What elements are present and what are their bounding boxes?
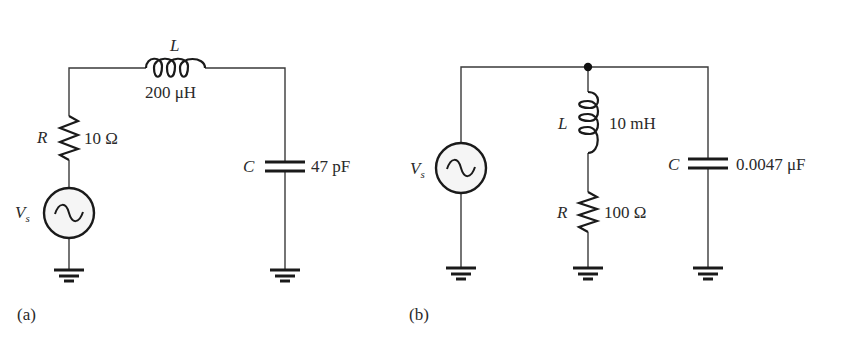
source-a-label: Vs xyxy=(15,204,30,224)
capacitor-a-value: 47 pF xyxy=(311,158,350,175)
source-a-subscript: s xyxy=(25,212,29,224)
wire-b-top xyxy=(461,67,708,159)
wire-a-right xyxy=(205,68,285,162)
caption-b: (b) xyxy=(409,306,429,323)
inductor-a-symbol: L xyxy=(170,37,179,54)
ground-a-source-icon xyxy=(54,270,84,281)
inductor-b-icon xyxy=(579,92,598,153)
ground-b-capacitor-icon xyxy=(693,268,723,279)
source-b-subscript: s xyxy=(420,168,424,180)
caption-a: (a) xyxy=(17,306,36,323)
resistor-a-value: 10 Ω xyxy=(84,130,118,147)
inductor-b-value: 10 mH xyxy=(609,115,656,132)
source-b-symbol: V xyxy=(410,159,420,178)
ground-a-capacitor-icon xyxy=(270,270,300,281)
junction-dot xyxy=(584,63,592,71)
resistor-b-symbol: R xyxy=(557,204,567,221)
resistor-b-icon xyxy=(579,192,597,232)
capacitor-b-value: 0.0047 μF xyxy=(736,156,806,173)
resistor-a-icon xyxy=(60,116,78,160)
ground-b-source-icon xyxy=(446,268,476,279)
inductor-b-symbol: L xyxy=(558,115,567,132)
source-b-label: Vs xyxy=(410,160,425,180)
wire-a-left xyxy=(69,68,146,116)
capacitor-a-symbol: C xyxy=(243,158,254,175)
inductor-a-icon xyxy=(146,59,205,77)
source-a-symbol: V xyxy=(15,203,25,222)
resistor-a-symbol: R xyxy=(37,129,47,146)
circuit-b xyxy=(436,63,728,279)
capacitor-b-symbol: C xyxy=(668,156,679,173)
resistor-b-value: 100 Ω xyxy=(604,204,646,221)
ground-b-resistor-icon xyxy=(573,268,603,279)
circuit-diagram xyxy=(0,0,864,364)
inductor-a-value: 200 μH xyxy=(145,84,196,101)
